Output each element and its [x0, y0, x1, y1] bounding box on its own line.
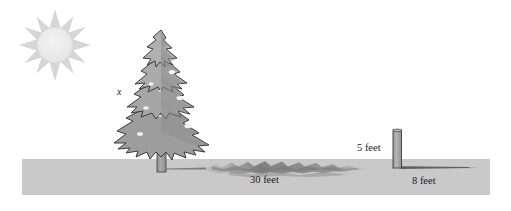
vertical-post [393, 129, 402, 168]
tree-height-label: x [117, 87, 121, 97]
post-shadow-length-label: 8 feet [412, 176, 436, 187]
evergreen-tree [114, 30, 209, 172]
post-height-label: 5 feet [357, 143, 381, 154]
sun-icon [19, 9, 91, 81]
tree-shadow-figure: x 30 feet 5 feet 8 feet [0, 0, 511, 211]
tree-shadow-length-label: 30 feet [250, 175, 279, 186]
